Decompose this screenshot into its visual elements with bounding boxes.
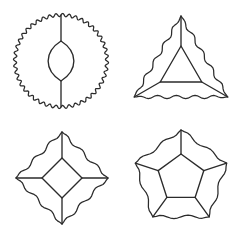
spoke-3 (195, 197, 209, 216)
pentagon-with-inner-pentagon (135, 130, 226, 219)
figure-canvas (0, 0, 240, 235)
triangle-with-inner-triangle (134, 16, 228, 99)
spoke-4 (153, 197, 167, 216)
inner-polygon (158, 154, 204, 197)
spoke-2 (204, 163, 227, 170)
inner-lens (48, 41, 74, 81)
figure-board (0, 0, 240, 235)
square-with-inner-square (16, 132, 108, 224)
inner-polygon (160, 46, 202, 82)
circle-with-lens (14, 14, 109, 109)
inner-polygon (42, 158, 82, 198)
